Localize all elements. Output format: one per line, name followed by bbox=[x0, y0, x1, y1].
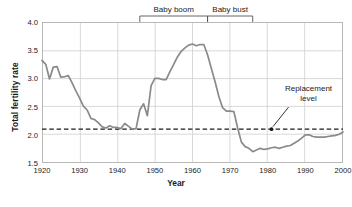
x-tick-1930: 1930 bbox=[71, 166, 88, 175]
x-tick-1950: 1950 bbox=[146, 166, 163, 175]
y-axis-tick-labels: 4.03.53.02.52.01.5 bbox=[0, 0, 352, 207]
x-tick-1970: 1970 bbox=[222, 166, 239, 175]
replacement-level-line2: level bbox=[300, 94, 316, 103]
y-tick-3.0: 3.0 bbox=[27, 74, 38, 83]
baby-bust-label: Baby bust bbox=[212, 5, 248, 14]
x-axis-title: Year bbox=[0, 178, 352, 188]
x-tick-1980: 1980 bbox=[259, 166, 276, 175]
y-tick-2.0: 2.0 bbox=[27, 130, 38, 139]
y-tick-4.0: 4.0 bbox=[27, 18, 38, 27]
baby-boom-label: Baby boom bbox=[153, 5, 193, 14]
x-tick-2000: 2000 bbox=[335, 166, 352, 175]
x-tick-1940: 1940 bbox=[109, 166, 126, 175]
y-tick-3.5: 3.5 bbox=[27, 46, 38, 55]
x-tick-1990: 1990 bbox=[297, 166, 314, 175]
replacement-level-label: Replacement level bbox=[274, 84, 344, 103]
y-tick-2.5: 2.5 bbox=[27, 102, 38, 111]
fertility-rate-chart: 4.03.53.02.52.01.5 192019301940195019601… bbox=[0, 0, 352, 207]
replacement-level-line1: Replacement bbox=[285, 84, 332, 93]
y-axis-title: Total fertility rate bbox=[10, 54, 20, 140]
x-tick-1920: 1920 bbox=[34, 166, 51, 175]
x-tick-1960: 1960 bbox=[184, 166, 201, 175]
